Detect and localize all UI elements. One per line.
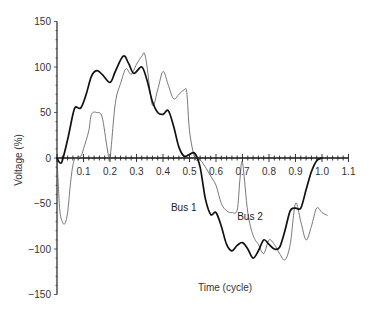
y-tick-label: −100	[28, 244, 51, 255]
x-axis-title: Time (cycle)	[198, 282, 252, 293]
x-tick-label: 0.5	[183, 166, 197, 177]
y-tick-label: −50	[34, 198, 51, 209]
x-tick-label: 1.1	[342, 166, 356, 177]
x-tick-label: 0.6	[209, 166, 223, 177]
x-tick-label: 0.3	[130, 166, 144, 177]
series-layer	[57, 53, 327, 260]
x-tick-label: 1.0	[315, 166, 329, 177]
y-axis: 150100500−50−100−150	[28, 16, 57, 300]
x-tick-label: 0.7	[236, 166, 250, 177]
x-tick-label: 0.4	[156, 166, 170, 177]
y-tick-label: 0	[45, 153, 51, 164]
y-tick-label: −150	[28, 289, 51, 300]
y-tick-label: 50	[40, 107, 52, 118]
y-tick-label: 100	[34, 62, 51, 73]
y-tick-label: 150	[34, 16, 51, 27]
series-line-bus-2	[57, 53, 327, 260]
x-tick-label: 0.2	[103, 166, 117, 177]
voltage-chart: 150100500−50−100−150 0.10.20.30.40.50.60…	[0, 0, 369, 314]
x-tick-label: 0.1	[77, 166, 91, 177]
x-tick-label: 0.9	[289, 166, 303, 177]
y-axis-title: Voltage (%)	[13, 134, 24, 186]
series-label-bus-2: Bus 2	[237, 211, 263, 222]
x-tick-label: 0.8	[262, 166, 276, 177]
series-label-bus-1: Bus 1	[171, 202, 197, 213]
